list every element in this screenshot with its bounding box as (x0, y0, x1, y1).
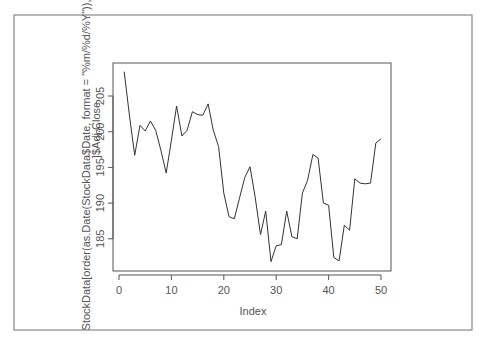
x-tick-label: 0 (116, 284, 122, 296)
x-tick-label: 50 (375, 284, 387, 296)
y-tick-label: 190 (94, 194, 106, 212)
x-tick-label: 30 (270, 284, 282, 296)
y-axis-label-line-2: ]$Adj.Close (90, 102, 102, 158)
line-chart: 185190195200205 01020304050 Index StockD… (0, 0, 482, 343)
x-tick-label: 10 (165, 284, 177, 296)
x-axis: 01020304050 (116, 275, 387, 296)
y-axis-label-line-1: StockData[order(as.Date(StockData$Date, … (80, 0, 92, 330)
y-tick-label: 195 (94, 158, 106, 176)
plot-area-box (113, 63, 391, 271)
x-tick-label: 40 (322, 284, 334, 296)
data-series-line (124, 72, 381, 262)
x-tick-label: 20 (218, 284, 230, 296)
y-tick-label: 185 (94, 230, 106, 248)
x-axis-label: Index (240, 305, 267, 317)
